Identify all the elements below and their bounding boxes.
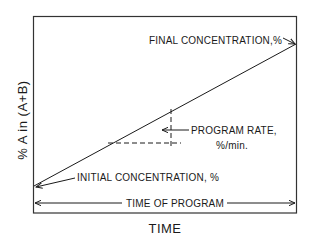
time-of-program-label: TIME OF PROGRAM bbox=[126, 198, 224, 209]
y-axis-label: % A in (A+B) bbox=[15, 80, 30, 159]
initial-concentration-label: INITIAL CONCENTRATION, % bbox=[77, 172, 219, 183]
initial-leader-arrow bbox=[36, 178, 75, 187]
gradient-line bbox=[34, 44, 296, 186]
final-leader-arrow bbox=[283, 38, 295, 44]
gradient-program-diagram: FINAL CONCENTRATION,% PROGRAM RATE, %/mi… bbox=[0, 0, 311, 245]
program-rate-unit-label: %/min. bbox=[216, 140, 248, 151]
x-axis-label: TIME bbox=[148, 221, 181, 236]
program-rate-label: PROGRAM RATE, bbox=[191, 125, 277, 136]
final-concentration-label: FINAL CONCENTRATION,% bbox=[149, 35, 282, 46]
